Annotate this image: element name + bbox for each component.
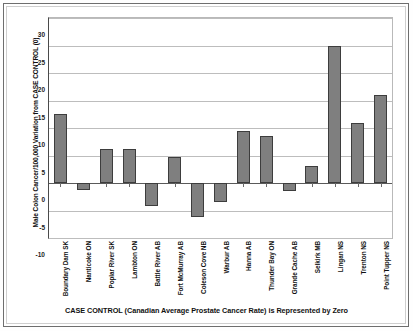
plot-area [48,17,393,239]
chart-figure: Male Colon Cancer/100,000 Variation from… [0,0,413,331]
y-tick-label: 0 [41,196,45,203]
x-axis-label: Grande Cache AB [291,241,298,303]
y-tick-label: -5 [39,223,45,230]
gridline--5 [49,211,392,212]
x-axis-category-labels: Boundary Dam SKNanticoke ONPoplar River … [48,241,393,301]
x-axis-label: Battle River AB [154,241,161,303]
x-axis-caption: CASE CONTROL (Canadian Average Prostate … [6,306,407,315]
x-axis-tick [129,183,130,187]
x-axis-tick [335,183,336,187]
y-tick-label: 25 [38,58,45,65]
x-axis-label: Selkirk MB [314,241,321,303]
bar [351,123,364,184]
bar [305,166,318,183]
x-axis-tick [243,183,244,187]
x-axis-label: Lambton ON [131,241,138,303]
x-axis-tick [106,183,107,187]
x-axis-label: Thunder Bay ON [268,241,275,303]
x-axis-label: Coleson Cove NB [200,241,207,303]
x-axis-label: Poplar River SK [108,241,115,303]
bar [260,136,273,183]
x-axis-label: Fort McMurray AB [177,241,184,303]
x-axis-label: Hanna AB [245,241,252,303]
gridline--10 [49,238,392,239]
x-axis-tick [266,183,267,187]
bar [283,183,296,191]
bar [237,131,250,183]
y-tick-label: 5 [41,168,45,175]
bar [54,114,67,183]
bar [168,157,181,183]
gridline-30 [49,18,392,19]
bar [123,149,136,183]
y-tick-label: 30 [38,31,45,38]
y-tick-label: 20 [38,86,45,93]
x-axis-label: Trenton NS [360,241,367,303]
bar [214,183,227,202]
y-tick-label: -10 [36,251,45,258]
x-axis-label: Point Tupper NS [383,241,390,303]
x-axis-label: Nanticoke ON [85,241,92,303]
bar [100,149,113,183]
y-tick-label: 15 [38,113,45,120]
bar [374,95,387,183]
x-axis-tick [381,183,382,187]
y-tick-label: 10 [38,141,45,148]
x-axis-tick [60,183,61,187]
x-axis-label: Warbur AB [223,241,230,303]
bar [328,46,341,184]
x-axis-label: Lingan NS [337,241,344,303]
x-axis-label: Boundary Dam SK [62,241,69,303]
bar [191,183,204,217]
bar [145,183,158,206]
x-axis-tick [175,183,176,187]
y-axis-tick-labels: 302520151050-5-10 [24,17,45,239]
x-axis-tick [358,183,359,187]
x-axis-tick [312,183,313,187]
bar [77,183,90,190]
